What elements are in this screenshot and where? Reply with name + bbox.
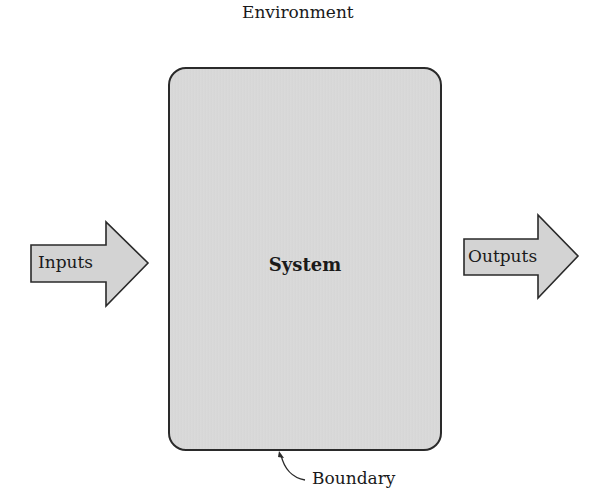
boundary-label: Boundary (312, 468, 395, 488)
outputs-label: Outputs (468, 246, 537, 266)
boundary-pointer-head-icon (278, 451, 284, 458)
boundary-pointer-icon (281, 455, 305, 480)
inputs-label: Inputs (38, 252, 93, 272)
